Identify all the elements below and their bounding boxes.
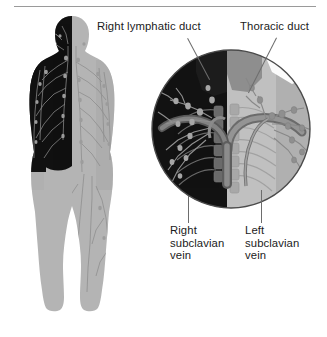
label-right-lymphatic-duct: Right lymphatic duct [97,20,201,33]
inset-circle-artwork [0,0,327,337]
illustration-root: Right lymphatic duct Thoracic duct Right… [0,0,327,337]
label-thoracic-duct: Thoracic duct [240,20,309,33]
label-right-subclavian-vein: Right subclavian vein [170,224,224,262]
label-left-subclavian-vein: Left subclavian vein [245,224,299,262]
leader-line-right-subclavian-vein [188,196,189,223]
leader-line-left-subclavian-vein [261,190,262,223]
